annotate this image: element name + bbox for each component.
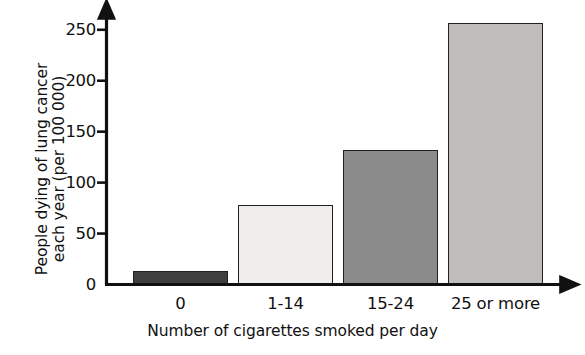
x-axis-tick-label: 25 or more xyxy=(451,294,540,313)
y-axis-tick-label: 50 xyxy=(50,224,96,243)
x-axis-tick-label: 0 xyxy=(175,294,185,313)
y-axis-tick-label: 200 xyxy=(50,71,96,90)
y-axis-tick-label: 150 xyxy=(50,122,96,141)
plot-area xyxy=(106,14,561,284)
x-axis-tick-label: 15-24 xyxy=(367,294,414,313)
y-axis-tick-label: 0 xyxy=(50,275,96,294)
x-axis-title: Number of cigarettes smoked per day xyxy=(0,322,585,340)
bar xyxy=(343,150,438,284)
bar xyxy=(133,271,228,284)
bar-chart: People dying of lung cancer each year (p… xyxy=(0,0,585,355)
y-axis-tick-label: 100 xyxy=(50,173,96,192)
y-axis-tick-label: 250 xyxy=(50,20,96,39)
x-axis-tick-label: 1-14 xyxy=(267,294,304,313)
bar xyxy=(448,23,543,284)
y-axis-tick-marks xyxy=(97,30,106,234)
y-axis-tick-labels: 050100150200250 xyxy=(38,0,96,355)
x-axis-tick-labels: 01-1415-2425 or more xyxy=(106,294,561,320)
bar xyxy=(238,205,333,284)
